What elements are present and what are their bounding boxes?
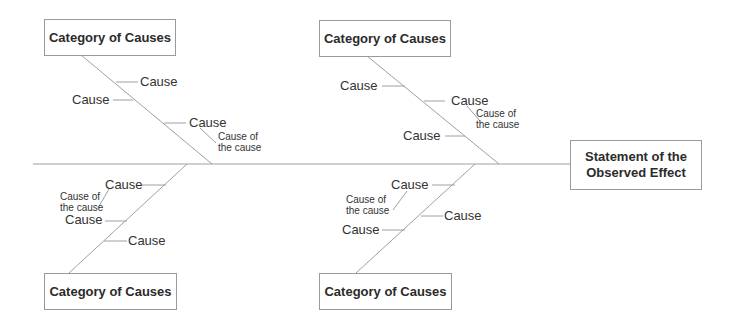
cause-label: Cause — [451, 94, 489, 108]
effect-line-2: Observed Effect — [586, 165, 686, 181]
category-label: Category of Causes — [49, 284, 171, 299]
effect-line-1: Statement of the — [585, 149, 687, 165]
cause-label: Cause — [128, 234, 166, 248]
category-box-bottom-left: Category of Causes — [44, 273, 177, 310]
effect-box: Statement of the Observed Effect — [570, 140, 702, 190]
cause-label: Cause — [342, 223, 380, 237]
cause-label: Cause — [72, 93, 110, 107]
cause-label: Cause — [444, 209, 482, 223]
sub-cause-label: Cause of the cause — [346, 194, 389, 216]
cause-label: Cause — [65, 213, 103, 227]
category-label: Category of Causes — [324, 31, 446, 46]
category-label: Category of Causes — [324, 284, 446, 299]
sub-cause-label: Cause of the cause — [476, 108, 519, 130]
category-box-top-left: Category of Causes — [44, 19, 176, 56]
sub-cause-label: Cause of the cause — [218, 131, 261, 153]
category-label: Category of Causes — [49, 30, 171, 45]
cause-label: Cause — [140, 75, 178, 89]
sub-cause-label: Cause of the cause — [60, 191, 103, 213]
cause-label: Cause — [340, 79, 378, 93]
cause-label: Cause — [403, 129, 441, 143]
category-box-bottom-right: Category of Causes — [319, 273, 452, 310]
cause-label: Cause — [189, 116, 227, 130]
cause-label: Cause — [391, 178, 429, 192]
category-box-top-right: Category of Causes — [319, 20, 451, 57]
bone-top-left — [81, 55, 212, 164]
cause-label: Cause — [105, 178, 143, 192]
